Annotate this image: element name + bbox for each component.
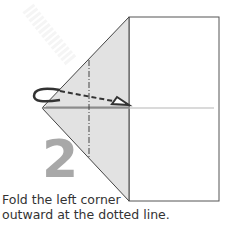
paper-rectangle bbox=[129, 17, 219, 201]
origami-diagram: 2 Fold the left corner outward at the do… bbox=[0, 0, 228, 226]
caption-line-2: outward at the dotted line. bbox=[2, 207, 170, 222]
instruction-caption: Fold the left corner outward at the dott… bbox=[2, 192, 170, 222]
step-number: 2 bbox=[42, 133, 78, 185]
upper-flap bbox=[42, 17, 129, 108]
caption-line-1: Fold the left corner bbox=[2, 192, 170, 207]
watermark bbox=[28, 8, 72, 62]
